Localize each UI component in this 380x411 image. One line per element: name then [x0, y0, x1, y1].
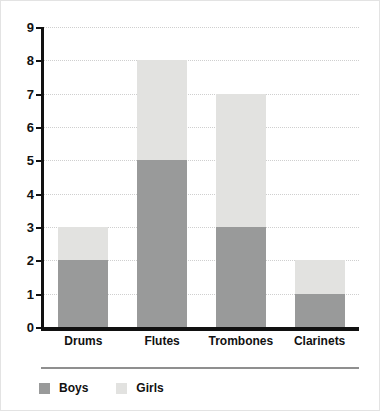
gridline [44, 127, 359, 128]
legend-item[interactable]: Boys [39, 381, 88, 395]
y-axis-tick-label: 9 [27, 21, 34, 34]
y-axis-tick-label: 4 [27, 187, 34, 200]
legend-divider [41, 367, 359, 369]
chart-legend: BoysGirls [39, 381, 164, 395]
y-axis-tick-mark [36, 194, 41, 196]
y-axis-tick-label: 7 [27, 87, 34, 100]
y-axis-tick-mark [36, 27, 41, 29]
gridline [44, 60, 359, 61]
gridline [44, 194, 359, 195]
legend-swatch [116, 383, 127, 394]
gridline [44, 160, 359, 161]
bar-segment[interactable] [58, 260, 108, 327]
x-axis-line [41, 327, 359, 331]
bar-segment[interactable] [216, 94, 266, 227]
legend-swatch [39, 383, 50, 394]
y-axis-tick-mark [36, 227, 41, 229]
y-axis-tick-mark [36, 94, 41, 96]
stacked-bar[interactable] [295, 260, 345, 327]
y-axis-tick-label: 5 [27, 154, 34, 167]
bar-segment[interactable] [58, 227, 108, 260]
x-axis-label: Trombones [209, 334, 274, 348]
stacked-bar[interactable] [137, 60, 187, 327]
gridline [44, 27, 359, 28]
y-axis-tick-mark [36, 127, 41, 129]
y-axis-tick-label: 3 [27, 221, 34, 234]
x-axis-label: Drums [64, 334, 102, 348]
x-axis-label: Clarinets [294, 334, 345, 348]
y-axis-tick-mark [36, 260, 41, 262]
legend-label: Girls [136, 381, 163, 395]
y-axis-tick-label: 8 [27, 54, 34, 67]
legend-label: Boys [59, 381, 88, 395]
bar-segment[interactable] [137, 60, 187, 160]
x-axis-label: Flutes [144, 334, 179, 348]
stacked-bar[interactable] [58, 227, 108, 327]
gridline [44, 94, 359, 95]
bar-chart: 0123456789 DrumsFlutesTrombonesClarinets… [0, 0, 380, 411]
y-axis-line [41, 27, 44, 330]
bar-segment[interactable] [216, 227, 266, 327]
bar-segment[interactable] [137, 160, 187, 327]
bar-segment[interactable] [295, 260, 345, 293]
y-axis-tick-label: 2 [27, 254, 34, 267]
y-axis-tick-mark [36, 160, 41, 162]
y-axis-tick-mark [36, 294, 41, 296]
stacked-bar[interactable] [216, 94, 266, 327]
y-axis-tick-label: 0 [27, 321, 34, 334]
legend-item[interactable]: Girls [116, 381, 163, 395]
bar-segment[interactable] [295, 294, 345, 327]
y-axis-tick-mark [36, 60, 41, 62]
y-axis-tick-label: 6 [27, 121, 34, 134]
plot-area: 0123456789 DrumsFlutesTrombonesClarinets [41, 27, 359, 330]
y-axis-tick-label: 1 [27, 287, 34, 300]
y-axis-tick-mark [36, 327, 41, 329]
